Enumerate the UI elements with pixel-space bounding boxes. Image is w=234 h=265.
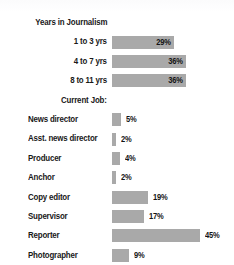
- category-label: 8 to 11 yrs: [70, 71, 107, 90]
- value-label: 36%: [168, 55, 183, 68]
- bar-track: 36%: [112, 71, 234, 90]
- category-label: Producer: [28, 149, 61, 168]
- category-label: Photographer: [28, 246, 78, 265]
- value-label: 29%: [156, 36, 171, 49]
- bar-track: 9%: [112, 246, 234, 265]
- category-label: 1 to 3 yrs: [74, 32, 107, 51]
- bar-track: 45%: [112, 226, 234, 245]
- bar-track: 2%: [112, 129, 234, 148]
- bar-track: 29%: [112, 32, 234, 51]
- bar: [112, 210, 144, 223]
- bar: 29%: [112, 36, 174, 49]
- value-label: 36%: [168, 74, 183, 87]
- bar-row-reporter: Reporter 45%: [0, 226, 234, 245]
- bar-row-copy-editor: Copy editor 19%: [0, 188, 234, 207]
- bar-track: 2%: [112, 168, 234, 187]
- value-label: 5%: [126, 113, 137, 126]
- value-label: 2%: [121, 133, 132, 146]
- value-label: 9%: [134, 249, 145, 262]
- category-label: News director: [28, 110, 78, 129]
- value-label: 19%: [153, 191, 168, 204]
- bar: [112, 152, 120, 165]
- bar-track: 19%: [112, 188, 234, 207]
- bar-track: 36%: [112, 52, 234, 71]
- category-label: Reporter: [28, 226, 59, 245]
- bar-row-photographer: Photographer 9%: [0, 246, 234, 265]
- bar: [112, 191, 148, 204]
- value-label: 4%: [125, 152, 136, 165]
- bar-track: 17%: [112, 207, 234, 226]
- group-heading-years-in-journalism: Years in Journalism: [35, 13, 107, 32]
- bar-row-8-to-11-yrs: 8 to 11 yrs 36%: [0, 71, 234, 90]
- bar-track: 4%: [112, 149, 234, 168]
- bar: [112, 229, 200, 242]
- bar: [112, 171, 116, 184]
- bar: [112, 249, 129, 262]
- value-label: 2%: [121, 171, 132, 184]
- category-label: Anchor: [28, 168, 55, 187]
- group-heading-row: Current Job:: [0, 91, 234, 110]
- bar-row-anchor: Anchor 2%: [0, 168, 234, 187]
- category-label: 4 to 7 yrs: [74, 52, 107, 71]
- scan-artifact-band: [0, 0, 234, 12]
- bar: [112, 113, 121, 126]
- value-label: 45%: [205, 229, 220, 242]
- bar: 36%: [112, 74, 186, 87]
- bar-row-1-to-3-yrs: 1 to 3 yrs 29%: [0, 32, 234, 51]
- bar-row-supervisor: Supervisor 17%: [0, 207, 234, 226]
- bar: 36%: [112, 55, 186, 68]
- bar-row-producer: Producer 4%: [0, 149, 234, 168]
- value-label: 17%: [149, 210, 164, 223]
- bar-track: 5%: [112, 110, 234, 129]
- group-heading-row: Years in Journalism: [0, 13, 234, 32]
- category-label: Supervisor: [28, 207, 67, 226]
- group-heading-current-job: Current Job:: [61, 91, 107, 110]
- bar-row-asst-news-director: Asst. news director 2%: [0, 129, 234, 148]
- bar: [112, 133, 116, 146]
- chart-rows: Years in Journalism 1 to 3 yrs 29% 4 to …: [0, 13, 234, 265]
- category-label: Asst. news director: [28, 129, 97, 148]
- bar-row-news-director: News director 5%: [0, 110, 234, 129]
- bar-row-4-to-7-yrs: 4 to 7 yrs 36%: [0, 52, 234, 71]
- category-label: Copy editor: [28, 188, 70, 207]
